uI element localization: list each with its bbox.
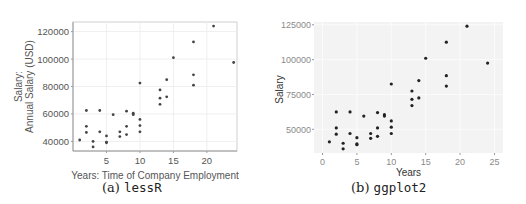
svg-text:Salary:: Salary: [13, 71, 24, 102]
data-point [139, 124, 142, 127]
data-point [92, 145, 95, 148]
data-point [335, 133, 338, 136]
y-tick-label: 60000 [43, 108, 69, 119]
data-point [98, 130, 101, 133]
plot-panel [314, 22, 503, 153]
data-point [424, 57, 427, 60]
data-point [125, 133, 128, 136]
y-axis-label: Salary [274, 75, 285, 103]
data-point [85, 131, 88, 134]
data-point [192, 84, 195, 87]
data-point [390, 82, 393, 85]
data-point [362, 114, 365, 117]
data-point [118, 130, 121, 133]
data-point [390, 119, 393, 122]
data-point [355, 136, 358, 139]
x-tick-label: 20 [455, 157, 465, 167]
data-point [112, 113, 115, 116]
data-point [192, 73, 195, 76]
data-point [172, 56, 175, 59]
data-point [139, 130, 142, 133]
data-point [78, 139, 81, 142]
data-point [132, 113, 135, 116]
y-axis-label: Salary:Annual Salary (USD) [13, 40, 35, 133]
data-point [335, 110, 338, 113]
y-tick-label: 80000 [43, 81, 69, 92]
data-point [390, 132, 393, 135]
data-point [159, 103, 162, 106]
x-tick-label: 5 [104, 155, 109, 166]
scatter-plot-lessr: 4000060000800001000001200005101520Years:… [0, 0, 263, 204]
data-point [125, 125, 128, 128]
data-point [355, 143, 358, 146]
data-point [165, 78, 168, 81]
data-point [159, 97, 162, 100]
y-tick-label: 120000 [37, 26, 69, 37]
x-tick-label: 10 [386, 157, 396, 167]
data-point [335, 126, 338, 129]
x-tick-label: 5 [354, 157, 359, 167]
data-point [105, 141, 108, 144]
y-tick-label: 100000 [37, 54, 69, 65]
data-point [85, 125, 88, 128]
data-point [376, 126, 379, 129]
svg-text:Annual Salary (USD): Annual Salary (USD) [24, 40, 35, 133]
data-point [369, 132, 372, 135]
caption-label: (b) [351, 180, 369, 195]
data-point [445, 85, 448, 88]
data-point [410, 104, 413, 107]
caption-library: lessR [124, 180, 162, 195]
x-tick-label: 25 [489, 157, 499, 167]
y-tick-label: 40000 [43, 136, 69, 147]
data-point [328, 140, 331, 143]
x-axis-label: Years [396, 167, 421, 178]
data-point [192, 40, 195, 43]
data-point [118, 135, 121, 138]
data-point [465, 25, 468, 28]
x-tick-label: 20 [202, 155, 213, 166]
caption-lessr: (a) lessR [102, 180, 162, 195]
x-tick-label: 15 [168, 155, 179, 166]
data-point [125, 110, 128, 113]
data-point [165, 95, 168, 98]
data-point [232, 61, 235, 64]
caption-label: (a) [102, 180, 120, 195]
chart-lessr: 4000060000800001000001200005101520Years:… [0, 0, 263, 204]
data-point [212, 25, 215, 28]
data-point [348, 132, 351, 135]
data-point [92, 140, 95, 143]
data-point [376, 111, 379, 114]
data-point [445, 74, 448, 77]
x-tick-label: 15 [421, 157, 431, 167]
y-tick-label: 125000 [281, 20, 311, 30]
x-tick-label: 0 [320, 157, 325, 167]
data-point [369, 137, 372, 140]
scatter-plot-ggplot2: 50000750001000001250000510152025YearsSal… [263, 0, 526, 204]
caption-ggplot2: (b) ggplot2 [351, 180, 426, 195]
data-point [98, 109, 101, 112]
data-point [445, 41, 448, 44]
data-point [342, 147, 345, 150]
data-point [417, 79, 420, 82]
x-tick-label: 10 [135, 155, 146, 166]
data-point [139, 118, 142, 121]
chart-ggplot2: 50000750001000001250000510152025YearsSal… [263, 0, 526, 204]
data-point [410, 89, 413, 92]
data-point [342, 142, 345, 145]
y-tick-label: 75000 [286, 90, 311, 100]
data-point [105, 135, 108, 138]
data-point [376, 135, 379, 138]
y-tick-label: 50000 [286, 125, 311, 135]
data-point [383, 114, 386, 117]
data-point [85, 109, 88, 112]
data-point [139, 82, 142, 85]
data-point [410, 98, 413, 101]
data-point [417, 96, 420, 99]
data-point [159, 89, 162, 92]
y-tick-label: 100000 [281, 55, 311, 65]
data-point [348, 110, 351, 113]
caption-library: ggplot2 [374, 180, 427, 195]
data-point [390, 126, 393, 129]
data-point [486, 62, 489, 65]
